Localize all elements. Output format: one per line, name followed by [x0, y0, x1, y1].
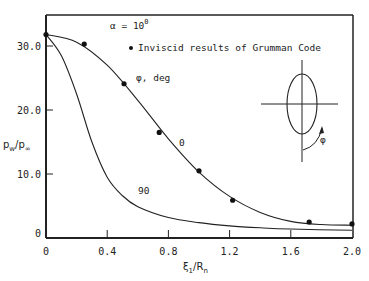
- y-tick-label: 30.0: [17, 41, 41, 52]
- y-tick-label: 10.0: [17, 169, 41, 180]
- y-tick-label: 0: [35, 228, 41, 239]
- x-tick-label: 0.8: [159, 246, 177, 257]
- x-tick-label: 1.6: [282, 246, 300, 257]
- curve-label-90: 90: [138, 185, 150, 196]
- data-point-marker: [196, 168, 201, 173]
- data-point-marker: [230, 198, 235, 203]
- data-point-marker: [82, 41, 87, 46]
- x-tick-label: 2.0: [343, 246, 361, 257]
- x-axis-title: ξ1/Rn: [183, 261, 208, 275]
- legend-label: Inviscid results of Grumman Code: [138, 42, 321, 53]
- curve-line: [46, 34, 352, 225]
- data-point-marker: [121, 81, 126, 86]
- y-axis-title: pw/p∞: [3, 139, 31, 153]
- data-point-marker: [157, 130, 162, 135]
- phi-deg-label: φ, deg: [136, 72, 170, 83]
- data-point-marker: [349, 221, 354, 226]
- inset-phi-label: φ: [320, 134, 326, 145]
- legend-marker-icon: [129, 46, 133, 50]
- y-tick-label: 20.0: [17, 105, 41, 116]
- x-tick-label: 0.4: [98, 246, 116, 257]
- chart-svg: 00.40.81.21.62.0 010.020.030.0 α = 100 I…: [0, 0, 369, 281]
- x-axis-ticks: 00.40.81.21.62.0: [43, 230, 361, 257]
- x-tick-label: 1.2: [221, 246, 239, 257]
- curve-label-0: 0: [179, 137, 185, 148]
- data-point-marker: [43, 32, 48, 37]
- inset-ellipse-diagram: φ: [261, 60, 338, 162]
- data-points: [43, 32, 354, 227]
- data-point-marker: [307, 219, 312, 224]
- x-tick-label: 0: [43, 246, 49, 257]
- alpha-label: α = 100: [110, 18, 149, 31]
